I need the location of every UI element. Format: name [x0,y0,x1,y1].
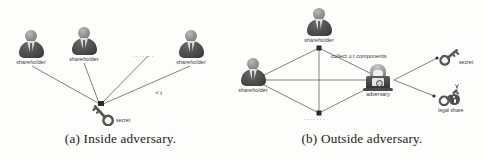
avatar [16,30,46,59]
legal-share-icon: legal share [435,82,463,110]
edge-sh1-secret [32,66,98,103]
edge-adversary-secret [394,58,437,80]
break-sparks [456,84,459,88]
panel-inside-adversary: shareholder shareholder shareholder ····… [0,0,241,161]
avatar [69,27,99,56]
secret-key-icon-b: secret [437,44,463,72]
actor-shareholder-1: shareholder [16,30,46,68]
avatar [176,30,206,59]
legal-share-label: legal share [438,107,463,113]
actor-shareholder-top: shareholder [304,8,334,46]
secret-key-label: secret [459,59,473,65]
avatar [304,8,334,37]
gear-icon [376,80,383,87]
secret-key-icon-a: secret [86,104,120,130]
ellipsis-shareholders: ······· [133,53,155,59]
actor-label: shareholder [16,59,46,65]
collect-components-label: collect ≥ t components [331,53,387,59]
figure-root: shareholder shareholder shareholder ····… [0,0,483,161]
edge-sh3-secret [103,66,190,104]
secret-key-label: secret [116,117,130,123]
actor-shareholder-2: shareholder [69,27,99,65]
actor-label: shareholder [304,37,334,43]
adversary-icon: adversary [361,64,395,100]
actor-label: shareholder [176,59,206,65]
caption-panel-a: (a) Inside adversary. [0,131,241,147]
avatar [238,58,268,87]
actor-label: shareholder [238,87,268,93]
ellipsis-shareholders: ······· [304,116,326,122]
key-icon [86,104,120,126]
edge-adversary-legal-share [394,80,434,96]
actor-shareholder-left: shareholder [238,58,268,96]
threshold-label: < t [155,89,162,96]
node-bottom [317,111,322,116]
edge-ellipsis-secret [101,56,148,104]
adversary-label: adversary [359,91,397,97]
actor-shareholder-3: shareholder [176,30,206,68]
info-glyph [453,96,455,98]
node-top [317,46,322,51]
edge-sh2-secret [84,63,99,103]
info-stem [454,99,456,103]
info-icon [449,94,460,105]
caption-panel-b: (b) Outside adversary. [241,131,483,147]
actor-label: shareholder [69,56,99,62]
panel-outside-adversary: shareholder shareholder ······· collect … [241,0,483,161]
